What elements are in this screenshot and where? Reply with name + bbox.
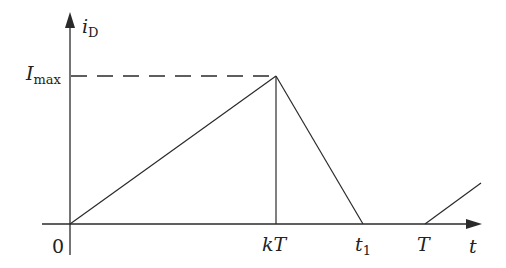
next-period-ramp [425,183,481,224]
imax-label: Imax [26,64,61,86]
x-axis-arrow-icon [466,219,482,229]
y-axis-arrow-icon [65,12,75,28]
y-axis-label: iD [82,17,99,39]
falling-ramp [276,76,363,224]
x-axis-label: t [469,237,477,256]
rising-ramp [70,76,276,224]
kt-label: kT [262,235,286,254]
diode-current-waveform: iD Imax 0 kT t1 T t [0,0,506,268]
period-t-label: T [417,235,430,254]
origin-label: 0 [52,237,64,256]
t1-label: t1 [355,235,371,257]
waveform-plot [0,0,506,268]
